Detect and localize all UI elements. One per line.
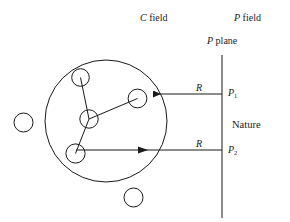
label-r-top-symbol: R (196, 82, 202, 93)
figure-svg (0, 0, 290, 222)
node-outer-left-circle (14, 113, 33, 132)
label-c-field-symbol: C (140, 12, 147, 23)
label-r-bottom-symbol: R (196, 138, 202, 149)
figure-canvas: C field P field P plane R R P1 P2 Nature (0, 0, 290, 222)
label-p2-subscript: 2 (234, 149, 237, 156)
label-p-plane-word: plane (213, 35, 237, 46)
connector-center-to-bottom-left (76, 119, 90, 154)
ray-p2-arrowhead (138, 147, 148, 154)
node-outer-bottom-circle (124, 188, 143, 207)
label-p2: P2 (228, 145, 237, 155)
label-r-bottom: R (196, 139, 202, 149)
label-nature: Nature (232, 120, 261, 131)
connector-center-to-right (89, 99, 138, 120)
label-r-top: R (196, 83, 202, 93)
label-c-field: C field (140, 13, 168, 23)
label-p-plane: P plane (207, 36, 237, 46)
c-field-boundary-circle (45, 60, 167, 182)
label-p-field: P field (234, 13, 261, 23)
label-p1: P1 (228, 88, 237, 98)
label-c-field-word: field (147, 12, 168, 23)
label-p1-subscript: 1 (234, 92, 237, 99)
label-p-field-word: field (240, 12, 261, 23)
